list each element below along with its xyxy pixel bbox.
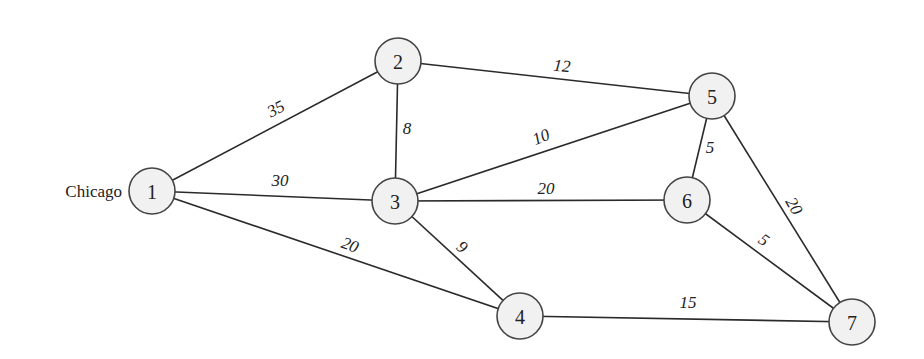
edge-1-4 (152, 191, 520, 316)
edge-weight-6-7: 5 (755, 230, 773, 250)
edge-6-7 (687, 200, 852, 322)
edge-weight-4-7: 15 (680, 293, 697, 312)
node-1: 1 (129, 168, 175, 214)
node-label: 4 (515, 306, 525, 328)
edges-layer (152, 61, 852, 322)
edge-weight-2-3: 8 (403, 119, 412, 138)
node-7: 7 (829, 299, 875, 345)
node-5: 5 (689, 73, 735, 119)
node-label: 7 (847, 312, 857, 334)
node-6: 6 (664, 177, 710, 223)
edge-4-7 (520, 316, 852, 322)
node-label: 3 (390, 191, 400, 213)
edge-weight-1-2: 35 (263, 97, 288, 122)
edge-weight-2-5: 12 (553, 56, 572, 76)
edge-3-6 (395, 200, 687, 201)
edge-weight-1-4: 20 (339, 233, 362, 257)
edge-weight-5-6: 5 (706, 138, 715, 157)
source-city-label: Chicago (65, 182, 122, 201)
edge-weight-3-5: 10 (530, 125, 553, 149)
node-label: 2 (393, 51, 403, 73)
node-label: 5 (707, 86, 717, 108)
edge-weight-1-3: 30 (271, 171, 290, 190)
edge-weight-3-4: 9 (453, 237, 472, 257)
node-3: 3 (372, 178, 418, 224)
node-label: 1 (147, 181, 157, 203)
edge-1-3 (152, 191, 395, 201)
edge-3-4 (395, 201, 520, 316)
node-4: 4 (497, 293, 543, 339)
edge-weight-3-6: 20 (538, 179, 556, 198)
node-2: 2 (375, 38, 421, 84)
network-graph: 35302081210209520515 1234567 Chicago (0, 0, 924, 359)
edge-5-7 (712, 96, 852, 322)
node-label: 6 (682, 190, 692, 212)
